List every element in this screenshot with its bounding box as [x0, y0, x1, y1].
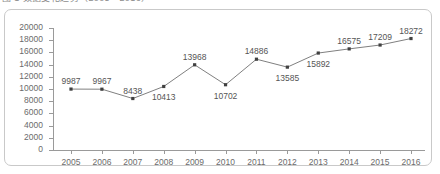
x-tick-mark	[256, 150, 257, 154]
x-tick-mark	[411, 150, 412, 154]
data-point-label: 13585	[276, 73, 300, 83]
y-tick-mark: 0	[49, 150, 53, 151]
y-tick-label: 2000	[24, 132, 43, 143]
series-markers	[69, 37, 412, 100]
y-tick-label: 8000	[24, 95, 43, 106]
data-point-label: 15892	[306, 59, 330, 69]
data-point-label: 17209	[368, 32, 392, 42]
y-tick-label: 6000	[24, 107, 43, 118]
data-point-marker	[255, 58, 258, 61]
x-tick-label: 2007	[123, 157, 142, 168]
plot-area: 0200040006000800010000120001400016000180…	[53, 28, 425, 150]
x-tick-label: 2015	[371, 157, 390, 168]
x-tick-mark	[349, 150, 350, 154]
x-tick-mark	[195, 150, 196, 154]
data-point-marker	[131, 97, 134, 100]
chart-title: 图 1 数据变化趋势（2005－2016）	[0, 0, 440, 4]
x-tick-label: 2008	[154, 157, 173, 168]
data-point-marker	[378, 43, 381, 46]
x-tick-mark	[71, 150, 72, 154]
data-point-label: 18272	[399, 26, 423, 36]
x-tick-mark	[318, 150, 319, 154]
data-point-label: 16575	[337, 36, 361, 46]
data-point-label: 14886	[245, 46, 269, 56]
y-tick-label: 20000	[19, 22, 43, 33]
x-tick-label: 2009	[185, 157, 204, 168]
x-tick-label: 2006	[92, 157, 111, 168]
chart-frame: 0200040006000800010000120001400016000180…	[4, 9, 432, 166]
x-tick-label: 2011	[247, 157, 265, 168]
x-tick-mark	[287, 150, 288, 154]
data-point-label: 9987	[62, 76, 81, 86]
chart-title-strip: 图 1 数据变化趋势（2005－2016）	[0, 0, 440, 4]
x-tick-mark	[380, 150, 381, 154]
x-tick-label: 2012	[278, 157, 297, 168]
data-point-marker	[69, 87, 72, 90]
x-tick-mark	[164, 150, 165, 154]
data-point-label: 9967	[92, 76, 111, 86]
series-polyline	[71, 39, 411, 99]
x-tick-label: 2010	[216, 157, 235, 168]
data-point-label: 10702	[214, 91, 238, 101]
x-tick-mark	[102, 150, 103, 154]
x-tick-label: 2013	[309, 157, 328, 168]
data-point-marker	[348, 47, 351, 50]
data-point-marker	[409, 37, 412, 40]
x-tick-label: 2014	[340, 157, 359, 168]
data-point-marker	[162, 85, 165, 88]
data-point-label: 13968	[183, 52, 207, 62]
y-tick-label: 14000	[19, 59, 43, 70]
y-tick-label: 10000	[19, 83, 43, 94]
line-series	[53, 28, 425, 150]
x-tick-mark	[133, 150, 134, 154]
data-point-marker	[317, 51, 320, 54]
y-tick-label: 16000	[19, 46, 43, 57]
y-tick-label: 18000	[19, 34, 43, 45]
x-tick-label: 2005	[62, 157, 81, 168]
y-tick-label: 4000	[24, 120, 43, 131]
x-tick-label: 2016	[402, 157, 421, 168]
y-tick-label: 12000	[19, 71, 43, 82]
data-point-marker	[100, 88, 103, 91]
data-point-marker	[286, 66, 289, 69]
data-point-label: 8438	[123, 86, 142, 96]
x-tick-mark	[226, 150, 227, 154]
x-axis-line	[53, 150, 425, 151]
data-point-marker	[224, 83, 227, 86]
data-point-marker	[193, 63, 196, 66]
y-tick-label: 0	[38, 144, 43, 155]
data-point-label: 10413	[152, 92, 176, 102]
